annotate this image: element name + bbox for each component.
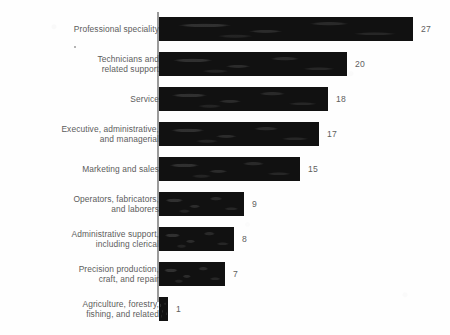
bar-administrative-support-including-clerical	[159, 227, 234, 251]
bar-row: Professional speciality 27	[0, 17, 450, 41]
category-label: Professional speciality	[7, 24, 159, 34]
bar-value-label: 1	[176, 304, 181, 314]
bar-row: Executive, administrative, and manageria…	[0, 122, 450, 146]
bar-executive-administrative-and-managerial	[159, 122, 319, 146]
category-label: Technicians and related support	[7, 54, 159, 74]
bar-value-label: 27	[421, 24, 431, 34]
category-label: Precision production, craft, and repair	[7, 264, 159, 284]
bar-row: Service 18	[0, 87, 450, 111]
category-label: Operators, fabricators, and laborers	[7, 194, 159, 214]
bar-professional-speciality	[159, 17, 413, 41]
bar-value-label: 8	[242, 234, 247, 244]
bar-row: Technicians and related support 20	[0, 52, 450, 76]
bar-rows: Professional speciality 27 Technicians a…	[0, 0, 450, 335]
bar-service	[159, 87, 328, 111]
bar-row: Operators, fabricators, and laborers 9	[0, 192, 450, 216]
category-label: Marketing and sales	[7, 164, 159, 174]
bar-operators-fabricators-and-laborers	[159, 192, 244, 216]
bar-row: Precision production, craft, and repair …	[0, 262, 450, 286]
bar-row: Administrative support, including cleric…	[0, 227, 450, 251]
bar-row: Marketing and sales 15	[0, 157, 450, 181]
bar-precision-production-craft-and-repair	[159, 262, 225, 286]
bar-value-label: 17	[327, 129, 337, 139]
category-label: Administrative support, including cleric…	[7, 229, 159, 249]
bar-technicians-and-related-support	[159, 52, 347, 76]
bar-row: Agriculture, forestry, fishing, and rela…	[0, 297, 450, 321]
bar-value-label: 9	[252, 199, 257, 209]
bar-value-label: 15	[308, 164, 318, 174]
bar-value-label: 20	[355, 59, 365, 69]
bar-agriculture-forestry-fishing-and-related	[159, 297, 168, 321]
bar-marketing-and-sales	[159, 157, 300, 181]
bar-value-label: 18	[336, 94, 346, 104]
bar-value-label: 7	[233, 269, 238, 279]
category-label: Service	[7, 94, 159, 104]
bar-chart: Professional speciality 27 Technicians a…	[0, 0, 450, 335]
category-label: Executive, administrative, and manageria…	[7, 124, 159, 144]
category-label: Agriculture, forestry, fishing, and rela…	[7, 299, 159, 319]
